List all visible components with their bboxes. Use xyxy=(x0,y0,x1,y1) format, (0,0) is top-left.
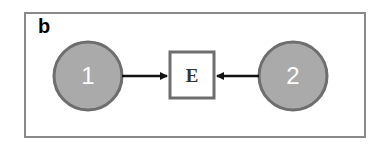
node-1-label: 1 xyxy=(58,64,118,88)
node-2-label: 2 xyxy=(263,64,323,88)
node-e-label: E xyxy=(172,66,212,85)
